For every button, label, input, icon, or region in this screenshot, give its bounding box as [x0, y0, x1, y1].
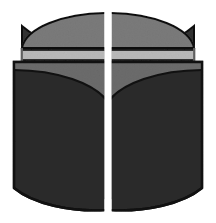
left-half-group	[14, 13, 108, 210]
left-front-panel	[14, 62, 108, 210]
right-half-group	[108, 13, 202, 210]
split-cylinder-figure: Split cylinder technical illustration A …	[0, 0, 216, 223]
center-split-gap	[105, 0, 112, 223]
right-band	[108, 50, 194, 60]
figure-container: Split cylinder technical illustration A …	[0, 0, 216, 223]
left-band	[22, 50, 108, 60]
right-front-panel	[108, 62, 202, 210]
